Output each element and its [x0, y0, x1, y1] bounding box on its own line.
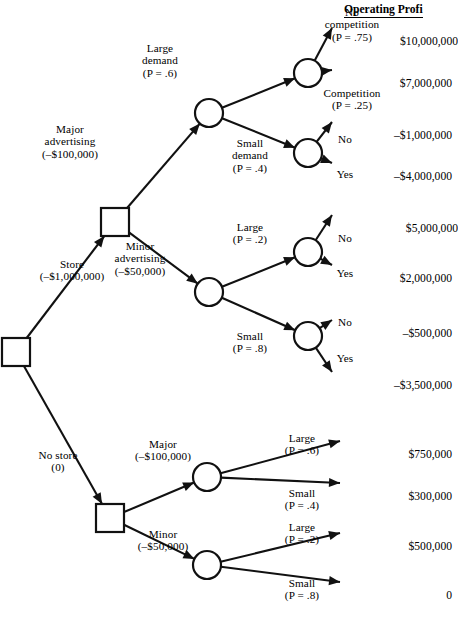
- payoff-2000000: $2,000,000: [0, 272, 452, 285]
- branch-label-no-competition-line-2: competition: [325, 18, 380, 30]
- branch-label-ns-minor-line-1: Minor: [138, 528, 188, 540]
- root-decision-node[interactable]: [2, 338, 30, 366]
- branch-label-ns-small-p8-line-1: Small: [285, 577, 319, 589]
- branch-label-competition-line-2: (P = .25): [323, 99, 380, 111]
- payoff-750000: $750,000: [0, 448, 452, 461]
- branch-label-yes-3: Yes: [337, 352, 354, 364]
- edge-ns-minor-small-arrowhead: [329, 576, 340, 585]
- payoff-neg4000000: –$4,000,000: [0, 170, 452, 183]
- payoff-10000000: $10,000,000: [0, 35, 458, 48]
- branch-label-yes-3-line-1: Yes: [337, 352, 354, 364]
- branch-label-large-p2-line-2: (P = .2): [233, 233, 267, 245]
- branch-label-minor-advertising-line-1: Minor: [115, 240, 166, 252]
- edge-ns-major-large-arrowhead: [328, 439, 340, 448]
- decision-tree-diagram: Operating Profi Store(–$1,000,000)No sto…: [0, 0, 458, 624]
- edge-store: [27, 236, 105, 338]
- edge-ns-major-small-arrowhead: [329, 478, 340, 487]
- branch-label-no-competition-line-1: No: [325, 6, 380, 18]
- payoff-neg1000000: –$1,000,000: [0, 129, 452, 142]
- tree-canvas: [0, 0, 458, 624]
- payoff-500000: $500,000: [0, 540, 452, 553]
- branch-label-major-advertising-line-3: (–$100,000): [42, 148, 98, 160]
- no-store-major-chance-node[interactable]: [193, 463, 221, 491]
- payoff-300000: $300,000: [0, 490, 452, 503]
- edge-ns-major-small: [221, 478, 340, 483]
- edge-ns-minor-small: [221, 567, 340, 582]
- branch-label-no-store-line-2: (0): [38, 461, 77, 473]
- branch-label-small-p8-line-2: (P = .8): [233, 342, 267, 354]
- payoff-neg500000: –$500,000: [0, 327, 452, 340]
- edge-minor-small: [222, 298, 295, 331]
- minor-large-competition-chance-node[interactable]: [294, 238, 322, 266]
- branch-label-small-demand-line-2: demand: [232, 149, 268, 161]
- major-demand-chance-node[interactable]: [195, 99, 223, 127]
- branch-label-large-demand-line-2: demand: [142, 54, 178, 66]
- branch-label-store-line-1: Store: [40, 258, 105, 270]
- branch-label-minor-advertising-line-2: advertising: [115, 252, 166, 264]
- branch-label-ns-large-p2-line-1: Large: [285, 521, 319, 533]
- branch-label-small-demand: Smalldemand(P = .4): [232, 137, 268, 174]
- no-store-advertising-decision-node[interactable]: [96, 504, 124, 532]
- payoff-7000000: $7,000,000: [0, 77, 452, 90]
- branch-label-ns-large-p6-line-1: Large: [285, 432, 319, 444]
- payoff-zero: 0: [0, 589, 452, 602]
- payoff-5000000: $5,000,000: [0, 222, 458, 235]
- payoff-neg3500000: –$3,500,000: [0, 379, 452, 392]
- no-store-minor-chance-node[interactable]: [193, 551, 221, 579]
- small-demand-competition-chance-node[interactable]: [294, 139, 322, 167]
- branch-label-competition: Competition(P = .25): [323, 87, 380, 112]
- edge-minor-large-arrowhead: [283, 257, 295, 266]
- edge-minor-small-yes-arrowhead: [322, 360, 332, 372]
